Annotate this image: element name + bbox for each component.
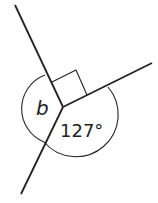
angle-label-b: b	[36, 96, 49, 120]
right-angle-marker	[52, 70, 87, 95]
angle-label-127: 127°	[60, 120, 103, 141]
ray-upper-left	[15, 5, 63, 107]
ray-lower-left	[21, 107, 63, 194]
angle-diagram: b 127°	[0, 0, 158, 203]
